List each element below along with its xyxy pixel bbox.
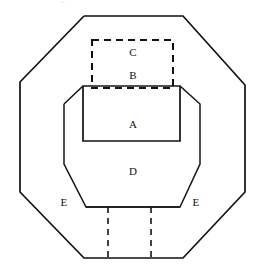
label-e-left: E [61, 196, 68, 208]
label-d: D [129, 165, 137, 177]
label-a: A [129, 118, 137, 130]
inner-notch-path-region-a [83, 86, 180, 141]
label-e-right: E [193, 196, 200, 208]
label-b: B [129, 69, 137, 81]
figure-canvas: C B A D E E [0, 0, 262, 280]
label-c: C [129, 46, 137, 58]
diagram-root: ~ C B A D E E [0, 0, 262, 280]
